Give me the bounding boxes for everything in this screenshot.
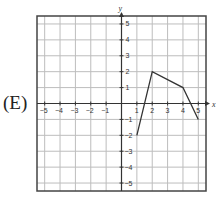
x-tick-label: 4	[181, 107, 185, 114]
y-tick-label: −2	[125, 132, 133, 139]
x-tick-label: 5	[196, 107, 200, 114]
y-tick-label: −3	[125, 148, 133, 155]
y-tick-label: 4	[126, 36, 130, 43]
x-tick-label: 3	[166, 107, 170, 114]
y-tick-label: 1	[126, 84, 130, 91]
x-tick-label: −5	[40, 107, 48, 114]
x-tick-label: 1	[135, 107, 139, 114]
x-axis-arrow-icon	[205, 101, 210, 106]
y-tick-label: −4	[125, 164, 133, 171]
x-tick-label: 2	[150, 107, 154, 114]
x-tick-label: −2	[86, 107, 94, 114]
x-tick-label: −3	[70, 107, 78, 114]
y-axis-label: y	[118, 4, 123, 13]
x-tick-label: −1	[101, 107, 109, 114]
x-axis-label: x	[211, 100, 216, 109]
y-tick-label: −5	[125, 180, 133, 187]
y-tick-label: 5	[126, 20, 130, 27]
y-tick-label: −1	[125, 116, 133, 123]
coordinate-grid-chart: xy−5−4−3−2−112345−5−4−3−2−112345	[0, 0, 217, 204]
x-tick-label: −4	[55, 107, 63, 114]
y-tick-label: 3	[126, 52, 130, 59]
y-tick-label: 2	[126, 68, 130, 75]
